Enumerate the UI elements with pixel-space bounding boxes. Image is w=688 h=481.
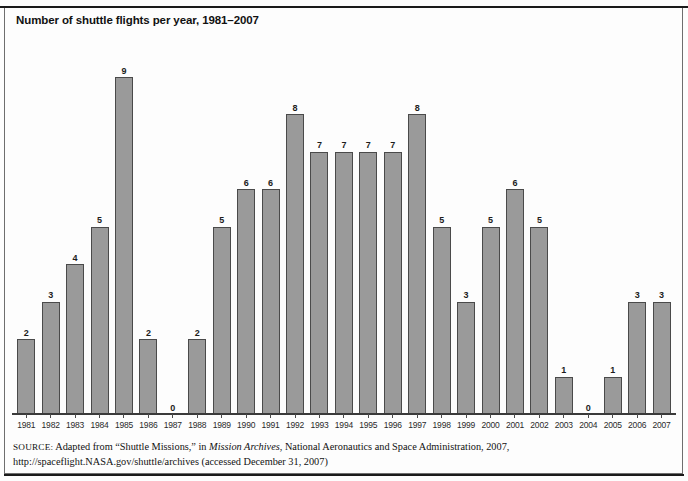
bar (408, 114, 426, 414)
bar (66, 264, 84, 414)
bar-value-label: 7 (332, 140, 356, 150)
bar-slot: 3 (454, 52, 478, 414)
bar-value-label: 1 (552, 365, 576, 375)
x-axis-label: 1988 (185, 420, 209, 430)
bar (310, 152, 328, 414)
x-axis-label: 1995 (356, 420, 380, 430)
bar (335, 152, 353, 414)
x-axis-labels: 1981198219831984198519861987198819891990… (14, 420, 674, 430)
x-axis-tick (381, 414, 405, 418)
bar-slot: 2 (136, 52, 160, 414)
bar (237, 189, 255, 414)
tick-mark (221, 414, 222, 418)
x-axis-label: 1985 (112, 420, 136, 430)
x-axis-tick (307, 414, 331, 418)
x-axis-label: 1986 (136, 420, 160, 430)
bar-slot: 0 (161, 52, 185, 414)
tick-mark (319, 414, 320, 418)
bar-slot: 3 (625, 52, 649, 414)
bar-slot: 5 (210, 52, 234, 414)
bar (433, 227, 451, 414)
bar-value-label: 4 (63, 253, 87, 263)
tick-mark (563, 414, 564, 418)
bar-slot: 9 (112, 52, 136, 414)
x-axis-label: 1994 (332, 420, 356, 430)
x-axis-tick (283, 414, 307, 418)
bar-value-label: 7 (381, 140, 405, 150)
x-axis-label: 1987 (161, 420, 185, 430)
x-axis-tick (454, 414, 478, 418)
x-axis-label: 2006 (625, 420, 649, 430)
x-axis-tick (234, 414, 258, 418)
bar (139, 339, 157, 414)
source-italic-title: Mission Archives (209, 441, 280, 452)
bar (17, 339, 35, 414)
bar-value-label: 3 (625, 290, 649, 300)
source-text-part-1: Adapted from “Shuttle Missions,” in (55, 441, 209, 452)
tick-mark (417, 414, 418, 418)
x-axis-label: 1992 (283, 420, 307, 430)
x-axis-label: 2001 (503, 420, 527, 430)
bar-slot: 8 (405, 52, 429, 414)
tick-mark (197, 414, 198, 418)
x-axis-tick (649, 414, 673, 418)
page-title: Number of shuttle flights per year, 1981… (16, 14, 259, 26)
x-axis-tick (552, 414, 576, 418)
x-axis-tick (332, 414, 356, 418)
bar (555, 377, 573, 414)
x-axis-label: 1981 (14, 420, 38, 430)
tick-mark (637, 414, 638, 418)
bar-value-label: 8 (283, 103, 307, 113)
bar (506, 189, 524, 414)
bar (604, 377, 622, 414)
tick-mark (26, 414, 27, 418)
bar-value-label: 5 (527, 215, 551, 225)
bottom-rule (4, 474, 684, 476)
x-axis-tick (356, 414, 380, 418)
bar-slot: 5 (87, 52, 111, 414)
bar (42, 302, 60, 414)
x-axis-tick (14, 414, 38, 418)
bar-value-label: 7 (307, 140, 331, 150)
x-axis-label: 1991 (258, 420, 282, 430)
bar-value-label: 0 (576, 403, 600, 413)
x-axis-tick (429, 414, 453, 418)
x-axis-label: 1997 (405, 420, 429, 430)
x-axis-label: 1984 (87, 420, 111, 430)
x-axis-label: 1990 (234, 420, 258, 430)
bar-value-label: 3 (454, 290, 478, 300)
x-axis-tick (625, 414, 649, 418)
bar (628, 302, 646, 414)
bar-slot: 7 (307, 52, 331, 414)
bar-value-label: 5 (87, 215, 111, 225)
bar (457, 302, 475, 414)
tick-mark (539, 414, 540, 418)
x-axis-tick (258, 414, 282, 418)
bar-slot: 4 (63, 52, 87, 414)
x-axis-label: 1996 (381, 420, 405, 430)
bar (213, 227, 231, 414)
bar-value-label: 9 (112, 66, 136, 76)
tick-mark (466, 414, 467, 418)
figure-page: Number of shuttle flights per year, 1981… (0, 0, 688, 481)
bar-slot: 7 (356, 52, 380, 414)
bar (286, 114, 304, 414)
bar (115, 77, 133, 414)
bar (530, 227, 548, 414)
x-axis-label: 1989 (210, 420, 234, 430)
bar-value-label: 2 (185, 328, 209, 338)
tick-mark (270, 414, 271, 418)
bar-value-label: 0 (161, 403, 185, 413)
bar-value-label: 2 (14, 328, 38, 338)
x-axis-tick (503, 414, 527, 418)
chart-plot-area: 234592025668777785356510133 (14, 52, 674, 414)
x-axis-tick (38, 414, 62, 418)
tick-mark (295, 414, 296, 418)
x-axis-tick (185, 414, 209, 418)
bar (188, 339, 206, 414)
bar (359, 152, 377, 414)
x-axis-label: 2007 (649, 420, 673, 430)
tick-mark (50, 414, 51, 418)
x-axis-label: 1999 (454, 420, 478, 430)
bar (262, 189, 280, 414)
